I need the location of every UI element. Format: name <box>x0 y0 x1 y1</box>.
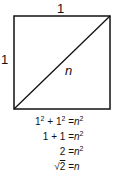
unit-square-diagram <box>0 0 127 187</box>
diagonal <box>14 16 110 109</box>
diagonal-label: n <box>65 64 72 77</box>
equation-2-lhs: 1 + 1 = <box>43 130 74 143</box>
equation-4: √2 = n <box>0 160 127 173</box>
equation-2-rhs: n2 <box>74 130 83 143</box>
equation-4-rhs: n <box>74 160 80 173</box>
equation-1: 12 + 12 = n2 <box>0 115 127 128</box>
top-side-label: 1 <box>57 2 64 15</box>
equation-3: 2 = n2 <box>0 145 127 158</box>
equation-4-lhs: √2 = <box>54 160 74 173</box>
equation-3-lhs: 2 = <box>60 145 74 158</box>
left-side-label: 1 <box>1 53 8 66</box>
equation-3-rhs: n2 <box>74 145 83 158</box>
equation-2: 1 + 1 = n2 <box>0 130 127 143</box>
equation-1-lhs: 12 + 12 = <box>35 115 74 128</box>
equation-1-rhs: n2 <box>74 115 83 128</box>
